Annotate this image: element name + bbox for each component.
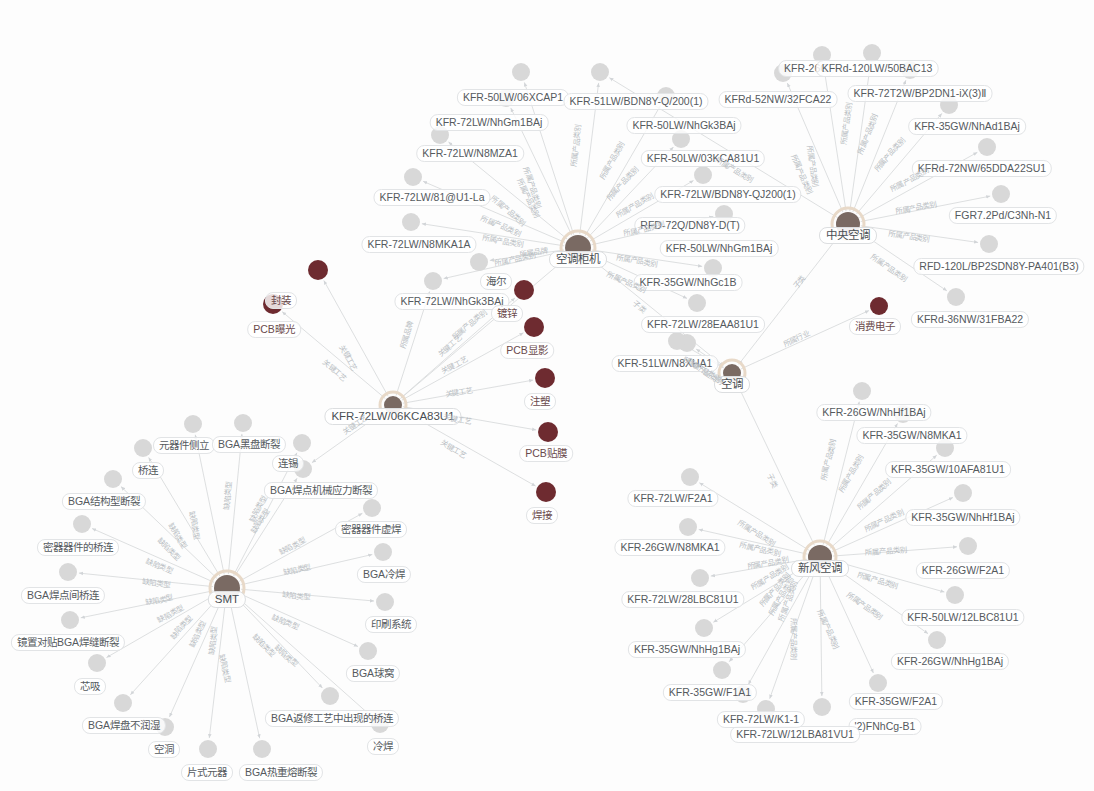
node-label[interactable]: KFR-35GW/NhHf1BAj: [905, 509, 1020, 526]
node-label[interactable]: KFR-50LW/12LBC81U1: [901, 609, 1024, 626]
node-label[interactable]: 消费电子: [849, 318, 901, 335]
graph-node[interactable]: [870, 297, 888, 315]
graph-node[interactable]: [538, 422, 558, 442]
node-label[interactable]: KFRd-72NW/65DDA22SU1: [912, 160, 1052, 177]
node-label[interactable]: KFR-35GW/NhGc1B: [634, 274, 743, 291]
node-label[interactable]: KFR-26GW/NhHf1BAj: [816, 404, 931, 421]
graph-node[interactable]: [694, 166, 712, 184]
node-label[interactable]: KFR-35GW/F2A1: [849, 693, 943, 710]
graph-node[interactable]: [199, 740, 217, 758]
graph-node[interactable]: [104, 470, 122, 488]
graph-node[interactable]: [88, 654, 106, 672]
node-label[interactable]: SMT: [208, 591, 246, 608]
node-label[interactable]: 冷焊: [367, 738, 399, 755]
graph-node[interactable]: [308, 260, 328, 280]
node-label[interactable]: BGA焊盘不润湿: [82, 717, 166, 734]
node-label[interactable]: KFR-50LW/NhGm1BAj: [660, 240, 779, 257]
node-label[interactable]: RFD-120L/BP2SDN8Y-PA401(B3): [913, 258, 1084, 275]
graph-node[interactable]: [73, 515, 91, 533]
graph-node[interactable]: [524, 317, 544, 337]
node-label[interactable]: KFR-72LW/BDN8Y-QJ200(1): [654, 186, 801, 203]
graph-node[interactable]: [992, 185, 1010, 203]
graph-node[interactable]: [470, 253, 488, 271]
node-label[interactable]: 密器器件虚焊: [335, 521, 407, 538]
graph-node[interactable]: [813, 698, 831, 716]
graph-node[interactable]: [954, 484, 972, 502]
node-label[interactable]: KFRd-120LW/50BAC13: [816, 60, 939, 77]
graph-node[interactable]: [402, 213, 420, 231]
node-label[interactable]: 密器器件的桥连: [37, 539, 119, 556]
graph-node[interactable]: [376, 593, 394, 611]
node-label[interactable]: KFR-51LW/N8XHA1: [612, 355, 719, 372]
node-label[interactable]: PCB曝光: [247, 321, 301, 338]
node-label[interactable]: KFR-26GW/NhHg1BAj: [891, 653, 1009, 670]
node-label[interactable]: 中央空调: [819, 227, 877, 244]
node-label[interactable]: KFR-50LW/06XCAP1: [457, 89, 569, 106]
node-label[interactable]: 注塑: [524, 393, 556, 410]
node-label[interactable]: KFR-50LW/NhGk3BAj: [626, 117, 741, 134]
graph-node[interactable]: [959, 537, 977, 555]
graph-node[interactable]: [424, 272, 442, 290]
graph-node[interactable]: [695, 619, 713, 637]
node-label[interactable]: 空调柜机: [549, 251, 607, 268]
node-label[interactable]: KFR-72LW/12LBA81VU1: [730, 726, 860, 743]
node-label[interactable]: BGA冷焊: [357, 566, 411, 583]
node-label[interactable]: KFR-72LW/06KCA83U1: [324, 408, 461, 425]
node-label[interactable]: 元器件侧立: [153, 437, 215, 454]
node-label[interactable]: 空洞: [148, 741, 180, 758]
node-label[interactable]: FGR7.2Pd/C3Nh-N1: [949, 207, 1057, 224]
node-label[interactable]: 空调: [714, 376, 750, 393]
graph-node[interactable]: [184, 415, 202, 433]
node-label[interactable]: KFRd-52NW/32FCA22: [719, 91, 838, 108]
graph-node[interactable]: [980, 235, 998, 253]
node-label[interactable]: 印刷系统: [365, 616, 417, 633]
node-label[interactable]: RFD-72Q/DN8Y-D(T): [634, 217, 745, 234]
node-label[interactable]: 片式元器: [181, 764, 233, 781]
node-label[interactable]: BGA黑盘断裂: [212, 436, 286, 453]
graph-node[interactable]: [59, 563, 77, 581]
node-label[interactable]: KFRd-36NW/31FBA22: [911, 311, 1029, 328]
node-label[interactable]: KFR-72T2W/BP2DN1-iX(3)Ⅱ: [848, 85, 993, 102]
graph-node[interactable]: [688, 294, 706, 312]
node-label[interactable]: BGA焊点机械应力断裂: [264, 482, 378, 499]
graph-node[interactable]: [374, 543, 392, 561]
graph-node[interactable]: [978, 138, 996, 156]
graph-node[interactable]: [514, 280, 534, 300]
node-label[interactable]: 海尔: [480, 273, 512, 290]
node-label[interactable]: 镀锌: [491, 305, 523, 322]
node-label[interactable]: KFR-72LW/28LBC81U1: [621, 591, 744, 608]
node-label[interactable]: PCB显影: [500, 342, 554, 359]
node-label[interactable]: 新风空调: [791, 560, 849, 577]
node-label[interactable]: KFR-72LW/F2A1: [627, 490, 718, 507]
node-label[interactable]: KFR-35GW/NhHg1BAj: [628, 641, 746, 658]
node-label[interactable]: 连锡: [272, 455, 304, 472]
node-label[interactable]: BGA热重熔断裂: [239, 764, 323, 781]
graph-node[interactable]: [679, 518, 697, 536]
node-label[interactable]: KFR-35GW/F1A1: [663, 684, 757, 701]
graph-node[interactable]: [713, 661, 731, 679]
node-label[interactable]: 芯吸: [74, 678, 106, 695]
node-label[interactable]: 镜置对贴BGA焊缝断裂: [11, 634, 125, 651]
graph-node[interactable]: [363, 499, 381, 517]
node-label[interactable]: KFR-35GW/NhAd1BAj: [908, 118, 1026, 135]
graph-node[interactable]: [359, 642, 377, 660]
node-label[interactable]: KFR-35GW/10AFA81U1: [885, 461, 1011, 478]
node-label[interactable]: KFR-26GW/N8MKA1: [614, 539, 725, 556]
graph-node[interactable]: [536, 482, 556, 502]
node-label[interactable]: KFR-72LW/K1-1: [717, 711, 805, 728]
node-label[interactable]: KFR-51LW/BDN8Y-Q/200(1): [563, 93, 708, 110]
graph-node[interactable]: [869, 674, 887, 692]
graph-node[interactable]: [114, 694, 132, 712]
graph-node[interactable]: [253, 740, 271, 758]
graph-node[interactable]: [61, 611, 79, 629]
graph-node[interactable]: [591, 63, 609, 81]
node-label[interactable]: KFR-72LW/N8MZA1: [416, 145, 524, 162]
graph-node[interactable]: [535, 368, 555, 388]
node-label[interactable]: KFR-26GW/F2A1: [916, 562, 1010, 579]
node-label[interactable]: BGA结构型断裂: [62, 493, 146, 510]
node-label[interactable]: PCB贴膜: [519, 445, 573, 462]
graph-node[interactable]: [947, 288, 965, 306]
node-label[interactable]: KFR-35GW/N8MKA1: [856, 427, 967, 444]
node-label[interactable]: 桥连: [132, 462, 164, 479]
node-label[interactable]: 封装: [265, 292, 297, 309]
